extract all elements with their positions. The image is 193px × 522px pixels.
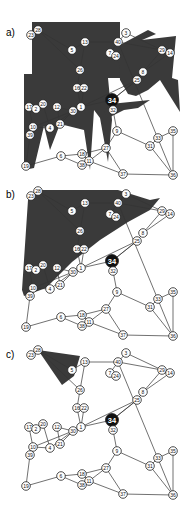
svg-text:6: 6 xyxy=(60,314,63,320)
edge xyxy=(89,161,123,174)
svg-text:6: 6 xyxy=(60,473,63,479)
svg-text:31: 31 xyxy=(147,143,153,149)
node-21: 21 xyxy=(56,440,65,449)
node-32: 32 xyxy=(109,426,118,435)
svg-text:31: 31 xyxy=(147,304,153,310)
svg-text:8: 8 xyxy=(142,69,145,75)
svg-text:36: 36 xyxy=(170,333,176,339)
node-27: 27 xyxy=(102,464,111,473)
node-25: 25 xyxy=(133,237,142,246)
svg-text:10: 10 xyxy=(30,285,36,291)
svg-text:35: 35 xyxy=(170,448,176,454)
node-32: 32 xyxy=(109,106,118,115)
svg-text:17: 17 xyxy=(26,265,32,271)
node-29: 29 xyxy=(158,207,167,216)
svg-text:30: 30 xyxy=(70,428,76,434)
svg-text:40: 40 xyxy=(115,39,121,45)
node-8: 8 xyxy=(139,388,148,397)
edge xyxy=(150,466,173,495)
node-3: 3 xyxy=(122,29,131,38)
svg-text:34: 34 xyxy=(108,96,117,105)
node-13: 13 xyxy=(81,38,90,47)
svg-text:33: 33 xyxy=(155,455,161,461)
node-13: 13 xyxy=(81,358,90,367)
svg-text:32: 32 xyxy=(110,268,116,274)
svg-text:23: 23 xyxy=(28,352,34,358)
svg-text:13: 13 xyxy=(82,200,88,206)
svg-text:29: 29 xyxy=(159,367,165,373)
network-figure: 2328513403724291482526162234321301722012… xyxy=(0,0,193,522)
node-21: 21 xyxy=(56,120,65,129)
svg-text:27: 27 xyxy=(103,465,109,471)
svg-text:2: 2 xyxy=(35,106,38,112)
svg-text:19: 19 xyxy=(23,483,29,489)
node-6: 6 xyxy=(57,313,66,322)
panel-label: c) xyxy=(6,349,14,360)
svg-text:39: 39 xyxy=(27,452,33,458)
node-35: 35 xyxy=(169,288,178,297)
svg-text:14: 14 xyxy=(167,50,173,56)
svg-text:3: 3 xyxy=(125,350,128,356)
node-1: 1 xyxy=(77,264,86,273)
node-8: 8 xyxy=(139,229,148,238)
node-33: 33 xyxy=(154,134,163,143)
node-5: 5 xyxy=(68,46,77,55)
svg-text:28: 28 xyxy=(35,188,41,194)
node-20: 20 xyxy=(39,100,48,109)
svg-text:4: 4 xyxy=(49,445,52,451)
node-22: 22 xyxy=(80,404,89,413)
svg-text:8: 8 xyxy=(142,389,145,395)
node-5: 5 xyxy=(68,366,77,375)
svg-text:3: 3 xyxy=(125,30,128,36)
edge xyxy=(123,494,173,495)
edge xyxy=(89,481,123,494)
node-36: 36 xyxy=(169,332,178,341)
svg-text:10: 10 xyxy=(30,124,36,130)
svg-text:1: 1 xyxy=(80,104,83,110)
edge xyxy=(26,476,61,486)
node-34: 34 xyxy=(106,255,119,268)
svg-text:35: 35 xyxy=(170,128,176,134)
svg-text:9: 9 xyxy=(116,128,119,134)
edge xyxy=(118,362,173,495)
svg-text:7: 7 xyxy=(109,211,112,217)
panel-label: b) xyxy=(6,189,15,200)
node-19: 19 xyxy=(22,482,31,491)
svg-text:34: 34 xyxy=(108,257,117,266)
svg-text:33: 33 xyxy=(155,296,161,302)
svg-text:34: 34 xyxy=(108,416,117,425)
svg-text:19: 19 xyxy=(23,324,29,330)
svg-text:11: 11 xyxy=(86,319,91,325)
svg-text:29: 29 xyxy=(159,208,165,214)
svg-text:40: 40 xyxy=(115,359,121,365)
svg-text:13: 13 xyxy=(82,359,88,365)
node-4: 4 xyxy=(46,285,55,294)
svg-text:2: 2 xyxy=(35,426,38,432)
edge xyxy=(150,307,173,336)
node-18: 18 xyxy=(78,150,87,159)
svg-text:7: 7 xyxy=(109,50,112,56)
node-1: 1 xyxy=(77,423,86,432)
node-39: 39 xyxy=(26,292,35,301)
node-14: 14 xyxy=(166,369,175,378)
svg-text:4: 4 xyxy=(49,286,52,292)
node-31: 31 xyxy=(146,303,155,312)
node-37: 37 xyxy=(119,170,128,179)
panel-b: 2328513403724291482526162234321301722012… xyxy=(6,187,177,341)
node-30: 30 xyxy=(69,107,78,116)
node-26: 26 xyxy=(76,386,85,395)
svg-text:14: 14 xyxy=(167,370,173,376)
node-34: 34 xyxy=(106,414,119,427)
edge xyxy=(123,174,173,175)
node-10: 10 xyxy=(29,123,38,132)
node-37: 37 xyxy=(119,331,128,340)
node-31: 31 xyxy=(146,142,155,151)
svg-text:21: 21 xyxy=(57,441,63,447)
svg-text:5: 5 xyxy=(71,47,74,53)
svg-text:17: 17 xyxy=(26,104,32,110)
node-32: 32 xyxy=(109,267,118,276)
svg-text:18: 18 xyxy=(79,312,85,318)
node-4: 4 xyxy=(46,124,55,133)
svg-text:32: 32 xyxy=(110,427,116,433)
svg-text:39: 39 xyxy=(27,293,33,299)
